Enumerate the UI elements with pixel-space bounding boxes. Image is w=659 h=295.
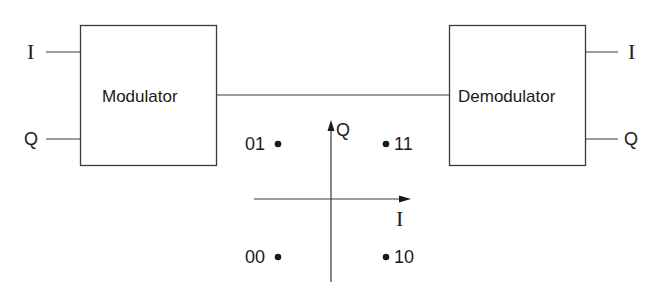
constellation-label-10: 10: [394, 248, 414, 266]
demodulator-q-output-label: Q: [624, 130, 638, 148]
constellation-point-11: [383, 141, 390, 148]
constellation-point-10: [383, 254, 390, 261]
modulator-i-input-label: I: [27, 41, 34, 63]
q-axis-label: Q: [336, 121, 350, 139]
diagram-canvas: [0, 0, 659, 295]
modulator-label: Modulator: [102, 88, 178, 105]
demodulator-label: Demodulator: [458, 88, 555, 105]
constellation-label-11: 11: [394, 135, 413, 153]
i-axis-label: I: [396, 208, 403, 230]
constellation-label-00: 00: [245, 248, 265, 266]
demodulator-i-output-label: I: [628, 41, 635, 63]
q-axis-arrowhead-icon: [328, 120, 335, 131]
constellation-point-00: [275, 254, 282, 261]
constellation-label-01: 01: [245, 135, 265, 153]
i-axis-arrowhead-icon: [399, 196, 411, 203]
modulator-q-input-label: Q: [24, 130, 38, 148]
constellation-point-01: [275, 141, 282, 148]
